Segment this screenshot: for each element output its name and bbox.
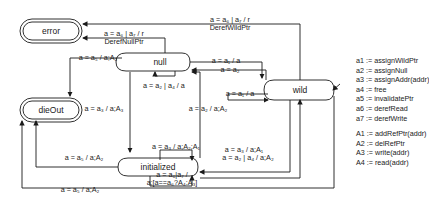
- label-initialized-self-2b: a;[a==a₆?A₄:A₃]: [147, 178, 198, 187]
- legend-action: a5 := invalidatePtr: [356, 94, 429, 104]
- legend-effect: A3 := write(addr): [356, 148, 429, 158]
- legend-action: a3 := assignAddr(addr): [356, 75, 429, 85]
- legend-action: a1 := assignWildPtr: [356, 56, 429, 66]
- legend-effect: A4 := read(addr): [356, 158, 429, 168]
- state-dieout-label: dieOut: [38, 105, 64, 115]
- label-wild-null: a = a₂: [221, 65, 240, 74]
- label-wild-error-2: DerefWildPtr: [210, 23, 251, 32]
- legend-action: a6 := derefRead: [356, 104, 429, 114]
- state-wild-label: wild: [292, 85, 308, 95]
- legend-effect: A1 := addRefPtr(addr): [356, 129, 429, 139]
- label-initialized-dieout: a = a₅ / a;A₂: [65, 153, 104, 162]
- label-initialized-self-1: a = a₃ / a;A₂;A₁: [152, 142, 200, 151]
- legend-effect: A2 := delRefPtr: [356, 139, 429, 149]
- label-null-dieout: a = a₅ / a;A₂: [79, 53, 118, 62]
- legend-action: a2 := assignNull: [356, 66, 429, 76]
- legend: a1 := assignWildPtr a2 := assignNull a3 …: [356, 56, 429, 168]
- label-wild-dieout: a = a₅ / a;A₂: [61, 185, 100, 194]
- label-wild-self: a = a₁ / a: [226, 89, 255, 98]
- label-null-error-2: DerefNullPtr: [104, 37, 144, 46]
- label-null-self: a = a₂ | a₄ / a: [143, 81, 185, 90]
- label-null-initialized: a = a₃ / a;A₃: [85, 104, 124, 113]
- label-initialized-wild: a = a₂ | a₄ / a;A₂: [222, 153, 274, 162]
- label-initialized-null: a = a₂ / a;A₂: [189, 104, 228, 113]
- label-null-wild: a = a₁ / a: [212, 56, 241, 65]
- state-null-label: null: [153, 57, 166, 67]
- legend-action: a7 := derefWrite: [356, 114, 429, 124]
- legend-action: a4 := free: [356, 85, 429, 95]
- state-error-label: error: [42, 26, 60, 36]
